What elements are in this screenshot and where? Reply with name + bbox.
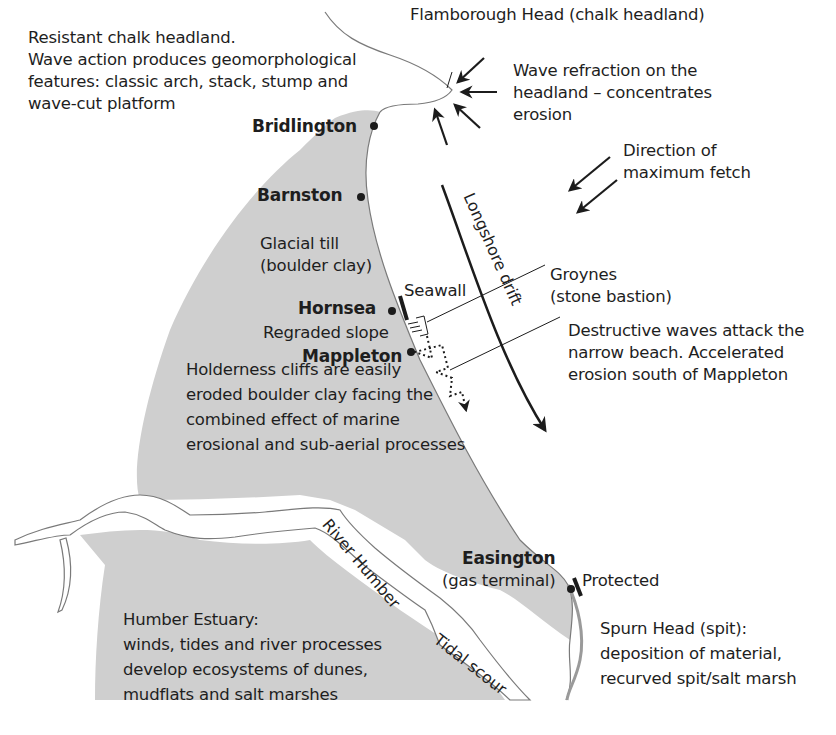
town-hornsea: Hornsea <box>298 297 376 319</box>
groynes-note: Groynes (stone bastion) <box>550 264 672 308</box>
spurn-head-note: Spurn Head (spit): deposition of materia… <box>600 616 796 691</box>
dot-mappleton <box>407 348 415 356</box>
holderness-note: Holderness cliffs are easily eroded boul… <box>186 357 465 457</box>
town-barnston: Barnston <box>257 184 342 206</box>
seawall-label: Seawall <box>404 280 466 302</box>
dot-bridlington <box>370 122 378 130</box>
dot-barnston <box>357 193 365 201</box>
chalk-headland-note: Resistant chalk headland. Wave action pr… <box>28 27 356 115</box>
dot-easington <box>567 585 575 593</box>
fetch-note: Direction of maximum fetch <box>623 140 751 184</box>
flamborough-label: Flamborough Head (chalk headland) <box>410 4 705 26</box>
humber-estuary-note: Humber Estuary: winds, tides and river p… <box>123 607 382 707</box>
protected-label: Protected <box>582 570 659 592</box>
protected-marker <box>574 578 581 596</box>
fetch-arrows <box>570 157 617 212</box>
destructive-waves-note: Destructive waves attack the narrow beac… <box>568 320 804 386</box>
town-easington: Easington <box>462 547 555 569</box>
river-tributary <box>58 538 71 612</box>
wave-refraction-arrows <box>435 58 497 145</box>
town-bridlington: Bridlington <box>252 115 357 137</box>
groynes-marker <box>408 316 428 336</box>
glacial-till-note: Glacial till (boulder clay) <box>260 233 372 277</box>
wave-refraction-note: Wave refraction on the headland – concen… <box>513 60 712 126</box>
regraded-slope-label: Regraded slope <box>263 322 389 344</box>
dot-hornsea <box>388 307 396 315</box>
gas-terminal-label: (gas terminal) <box>442 570 555 592</box>
